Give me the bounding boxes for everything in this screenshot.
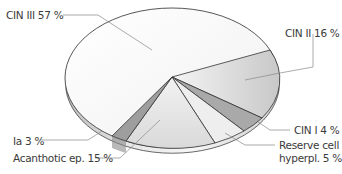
label-acanthotic: Acanthotic ep. 15 % [13,152,113,164]
label-reserve-line2: hyperpl. 5 % [279,152,342,164]
label-ia: Ia 3 % [13,135,44,147]
label-cin1: CIN I 4 % [294,124,339,136]
label-reserve-line1: Reserve cell [279,139,339,151]
label-cin2: CIN II 16 % [285,27,340,39]
label-cin3: CIN III 57 % [6,9,63,21]
